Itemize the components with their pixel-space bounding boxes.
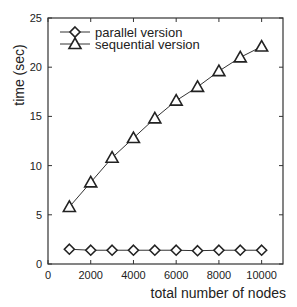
triangle-marker-icon (192, 81, 204, 92)
triangle-marker-icon (256, 41, 268, 52)
diamond-marker-icon (86, 245, 96, 255)
series-line (69, 47, 261, 207)
y-tick-label: 10 (30, 160, 42, 172)
x-tick-label: 2000 (78, 269, 102, 281)
legend-item: sequential version (60, 37, 200, 52)
series-line (69, 249, 261, 250)
diamond-marker-icon (235, 245, 245, 255)
triangle-marker-icon (213, 65, 225, 76)
plot-frame (48, 18, 283, 264)
x-tick-label: 6000 (164, 269, 188, 281)
diamond-marker-icon (64, 244, 74, 254)
diamond-marker-icon (107, 245, 117, 255)
diamond-marker-icon (150, 245, 160, 255)
diamond-marker-icon (214, 245, 224, 255)
series-parallel-version (64, 244, 266, 255)
triangle-marker-icon (69, 38, 81, 49)
triangle-marker-icon (170, 95, 182, 106)
x-tick-label: 4000 (121, 269, 145, 281)
plot-area: 05101520250200040006000800010000 (30, 12, 283, 281)
legend-label: sequential version (95, 37, 200, 52)
triangle-marker-icon (234, 51, 246, 62)
x-tick-label: 10000 (246, 269, 277, 281)
y-tick-label: 0 (36, 258, 42, 270)
diamond-marker-icon (257, 245, 267, 255)
diamond-marker-icon (171, 245, 181, 255)
y-tick-label: 5 (36, 209, 42, 221)
x-tick-label: 0 (45, 269, 51, 281)
diamond-marker-icon (128, 245, 138, 255)
y-tick-label: 25 (30, 12, 42, 24)
y-tick-label: 20 (30, 61, 42, 73)
x-axis-label: total number of nodes (151, 285, 286, 301)
diamond-marker-icon (193, 246, 203, 256)
data-series (63, 41, 267, 256)
triangle-marker-icon (149, 112, 161, 123)
line-chart: 05101520250200040006000800010000 paralle… (0, 0, 297, 307)
y-axis-label: time (sec) (11, 44, 27, 105)
x-tick-label: 8000 (207, 269, 231, 281)
legend: parallel versionsequential version (60, 25, 200, 52)
diamond-marker-icon (70, 27, 80, 37)
series-sequential-version (63, 41, 267, 212)
y-tick-label: 15 (30, 110, 42, 122)
